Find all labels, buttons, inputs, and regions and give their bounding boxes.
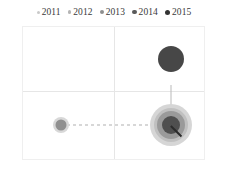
axis-horizontal-zero	[23, 91, 204, 92]
legend-item-2015[interactable]: 2015	[165, 7, 191, 17]
bubble-2015-top[interactable]	[158, 46, 184, 72]
bubble-2015-left[interactable]	[56, 120, 67, 131]
axis-vertical-zero	[114, 27, 115, 159]
legend-item-2013[interactable]: 2013	[100, 7, 125, 17]
legend-label-2015: 2015	[172, 7, 191, 17]
chart-root: 2011 2012 2013 2014 2015	[0, 0, 228, 172]
connector-dashed-arrow	[67, 125, 163, 126]
legend-dot-2012	[68, 10, 72, 14]
chart-legend: 2011 2012 2013 2014 2015	[0, 4, 228, 20]
legend-item-2011[interactable]: 2011	[37, 7, 61, 17]
legend-item-2014[interactable]: 2014	[132, 7, 158, 17]
legend-dot-2011	[37, 11, 40, 14]
legend-label-2012: 2012	[73, 7, 92, 17]
legend-dot-2014	[132, 10, 137, 15]
legend-item-2012[interactable]: 2012	[68, 7, 93, 17]
legend-label-2011: 2011	[42, 7, 61, 17]
legend-label-2013: 2013	[106, 7, 125, 17]
legend-dot-2013	[100, 10, 104, 14]
legend-dot-2015	[165, 10, 170, 15]
legend-label-2014: 2014	[139, 7, 158, 17]
plot-area	[22, 26, 205, 160]
